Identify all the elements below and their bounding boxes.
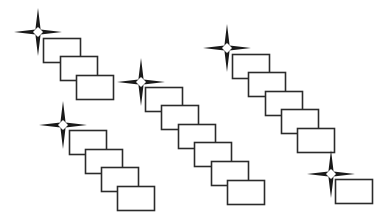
rectangle-box <box>336 180 373 204</box>
group-top-right <box>203 24 335 153</box>
sparkle-core-icon <box>136 77 146 87</box>
rectangle-box <box>228 181 265 205</box>
sparkle-core-icon <box>33 27 43 37</box>
rectangle-box <box>118 187 155 211</box>
sparkle-core-icon <box>58 120 68 130</box>
group-bottom-right <box>307 150 373 204</box>
group-bottom-left <box>39 101 155 211</box>
sparkle-core-icon <box>326 169 336 179</box>
group-top-left <box>14 8 114 100</box>
diagram-canvas <box>0 0 390 221</box>
rectangle-box <box>298 129 335 153</box>
rectangle-box <box>77 76 114 100</box>
sparkle-core-icon <box>222 43 232 53</box>
